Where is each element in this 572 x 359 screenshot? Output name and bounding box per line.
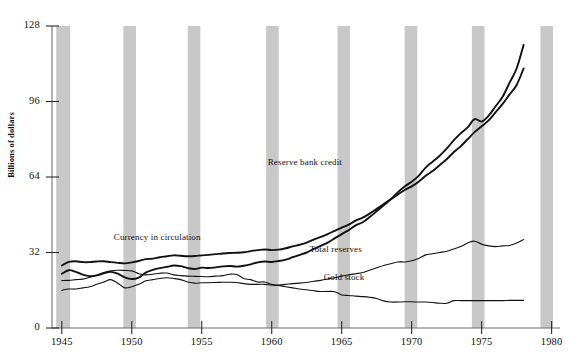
recession-band-1 [123, 26, 136, 328]
y-tick-label-32: 32 [10, 246, 40, 257]
series-label-currency-in-circulation: Currency in circulation [114, 232, 201, 242]
x-tick-label-1980: 1980 [529, 336, 572, 347]
x-tick-label-1970: 1970 [389, 336, 435, 347]
series-label-reserve-bank-credit: Reserve bank credit [268, 157, 342, 167]
series-label-total-reserves: Total reserves [310, 244, 362, 254]
recession-band-4 [337, 26, 350, 328]
x-tick-label-1945: 1945 [39, 336, 85, 347]
x-tick-label-1960: 1960 [249, 336, 295, 347]
x-tick-label-1965: 1965 [319, 336, 365, 347]
y-tick-label-64: 64 [10, 170, 40, 181]
recession-band-5 [405, 26, 418, 328]
x-tick-label-1955: 1955 [179, 336, 225, 347]
y-tick-label-128: 128 [10, 19, 40, 30]
series-label-gold-stock: Gold stock [324, 272, 365, 282]
recession-band-6 [472, 26, 485, 328]
x-tick-label-1975: 1975 [459, 336, 505, 347]
chart-root: Billions of dollars 0326496128 194519501… [0, 0, 572, 359]
y-tick-label-96: 96 [10, 95, 40, 106]
line-chart-canvas [0, 0, 572, 359]
y-tick-label-0: 0 [10, 321, 40, 332]
x-tick-label-1950: 1950 [109, 336, 155, 347]
recession-band-7 [540, 26, 553, 328]
